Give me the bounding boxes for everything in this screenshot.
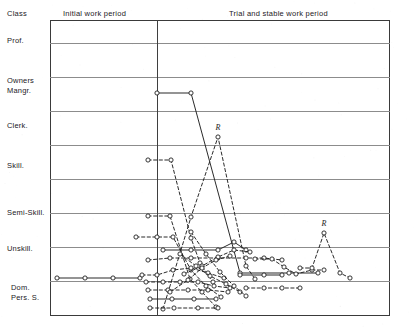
data-point-marker xyxy=(172,306,176,310)
data-point-marker xyxy=(196,280,200,284)
data-point-marker xyxy=(148,297,152,301)
y-axis-label-4: Skill. xyxy=(7,161,24,171)
y-axis-label-line1: Unskill. xyxy=(7,244,33,253)
data-point-marker xyxy=(148,306,152,310)
data-point-marker xyxy=(280,258,284,262)
data-point-marker xyxy=(168,214,172,218)
data-point-marker xyxy=(196,306,200,310)
data-point-marker xyxy=(216,135,220,139)
data-point-marker xyxy=(224,282,228,286)
series-owners-descent xyxy=(155,91,320,275)
data-point-marker xyxy=(83,276,87,280)
data-point-marker xyxy=(189,91,193,95)
data-point-marker xyxy=(146,288,150,292)
data-point-marker xyxy=(171,268,175,272)
period-label-initial: Initial work period xyxy=(63,9,126,18)
data-point-marker xyxy=(294,272,298,276)
data-point-marker xyxy=(189,215,193,219)
data-point-marker xyxy=(228,254,232,258)
data-point-marker xyxy=(310,266,314,270)
y-axis-label-line1: Clerk. xyxy=(7,121,28,130)
data-point-marker xyxy=(189,248,193,252)
data-point-marker xyxy=(228,286,232,290)
data-point-marker xyxy=(186,288,190,292)
series-semiskill-start xyxy=(146,214,218,309)
data-point-marker xyxy=(262,286,266,290)
data-point-marker xyxy=(146,258,150,262)
data-point-marker xyxy=(194,264,198,268)
data-point-marker xyxy=(55,276,59,280)
data-point-marker xyxy=(253,277,257,281)
series-line xyxy=(163,137,255,309)
data-point-marker xyxy=(270,257,274,261)
data-point-marker xyxy=(348,276,352,280)
y-axis-label-line1: Prof. xyxy=(7,36,24,45)
data-point-marker xyxy=(182,272,186,276)
y-axis-label-6: Unskill. xyxy=(7,244,33,254)
chart-root: Class Initial work period Trial and stab… xyxy=(0,0,414,328)
data-point-marker xyxy=(200,266,204,270)
data-point-marker xyxy=(216,248,220,252)
data-point-marker xyxy=(248,250,252,254)
data-point-marker xyxy=(189,266,193,270)
data-point-marker xyxy=(212,284,216,288)
data-point-marker xyxy=(189,236,193,240)
data-point-marker xyxy=(144,280,148,284)
data-point-marker xyxy=(280,286,284,290)
data-point-marker xyxy=(168,256,172,260)
data-point-marker xyxy=(219,295,223,299)
period-label-trial: Trial and stable work period xyxy=(229,9,328,18)
y-axis-label-line1: Dom. xyxy=(11,283,30,292)
series-layer: RR xyxy=(50,20,390,316)
y-axis-label-7: Dom.Pers. S. xyxy=(11,283,39,302)
data-point-marker xyxy=(316,271,320,275)
series-domestic-initial xyxy=(55,276,142,280)
data-point-marker xyxy=(338,271,342,275)
data-point-marker xyxy=(155,235,159,239)
data-point-marker xyxy=(211,280,215,284)
data-point-marker xyxy=(322,268,326,272)
data-point-marker xyxy=(244,256,248,260)
series-right-step xyxy=(238,273,284,277)
plot-area: RR xyxy=(50,20,390,316)
data-point-marker xyxy=(178,280,182,284)
data-point-marker xyxy=(206,288,210,292)
data-point-marker xyxy=(200,290,204,294)
series-line xyxy=(148,216,216,307)
data-point-marker xyxy=(192,297,196,301)
data-point-marker xyxy=(322,231,326,235)
data-point-marker xyxy=(232,248,236,252)
series-domestic-e xyxy=(148,306,220,310)
data-point-marker xyxy=(189,230,193,234)
y-axis-label-2: OwnersMangr. xyxy=(7,76,34,95)
data-point-marker xyxy=(155,273,159,277)
data-point-marker xyxy=(186,278,190,282)
y-axis-label-line1: Skill. xyxy=(7,161,24,170)
data-point-marker xyxy=(244,264,248,268)
series-line xyxy=(148,160,213,282)
data-point-marker xyxy=(204,252,208,256)
data-point-marker xyxy=(232,240,236,244)
data-point-marker xyxy=(214,297,218,301)
data-point-marker xyxy=(134,235,138,239)
data-point-marker xyxy=(170,297,174,301)
y-axis-label-line1: Owners xyxy=(7,76,34,85)
data-point-marker xyxy=(216,306,220,310)
y-axis-label-line1: Semi-Skill. xyxy=(7,208,45,217)
y-axis-labels: Prof.OwnersMangr.Clerk.Skill.Semi-Skill.… xyxy=(0,0,50,328)
annotation-r-1: R xyxy=(215,123,221,132)
data-point-marker xyxy=(111,276,115,280)
data-point-marker xyxy=(226,290,230,294)
data-point-marker xyxy=(232,284,236,288)
y-axis-label-1: Prof. xyxy=(7,36,24,46)
series-domestic-c xyxy=(146,288,230,294)
data-point-marker xyxy=(238,273,242,277)
series-line xyxy=(157,93,318,273)
data-point-marker xyxy=(253,257,257,261)
data-point-marker xyxy=(168,290,172,294)
data-point-marker xyxy=(244,294,248,298)
series-right-low xyxy=(244,286,302,290)
data-point-marker xyxy=(280,273,284,277)
y-axis-label-line2: Mangr. xyxy=(7,86,34,96)
data-point-marker xyxy=(171,235,175,239)
